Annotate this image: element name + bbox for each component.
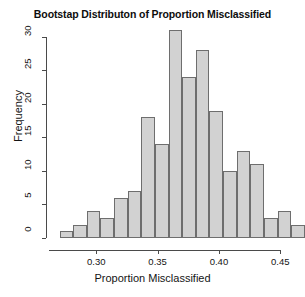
histogram-bar <box>73 225 87 238</box>
y-tick-label: 0 <box>22 227 33 249</box>
histogram-bar <box>264 218 278 238</box>
x-tick-mark <box>280 250 281 254</box>
histogram-figure: Bootstap Distributon of Proportion Miscl… <box>0 0 305 297</box>
y-tick-label: 15 <box>22 126 33 148</box>
y-tick-label: 30 <box>22 25 33 47</box>
y-tick-mark <box>42 204 46 205</box>
x-tick-label: 0.35 <box>138 256 178 267</box>
y-tick-mark <box>42 70 46 71</box>
chart-title: Bootstap Distributon of Proportion Miscl… <box>0 8 305 20</box>
histogram-bar <box>182 77 196 238</box>
histogram-bar <box>250 164 264 238</box>
histogram-bar <box>291 225 305 238</box>
x-tick-mark <box>219 250 220 254</box>
histogram-bar <box>114 198 128 238</box>
histogram-bar <box>196 50 210 238</box>
histogram-bar <box>128 191 142 238</box>
y-tick-mark <box>42 238 46 239</box>
y-tick-label: 10 <box>22 159 33 181</box>
y-tick-mark <box>42 104 46 105</box>
histogram-bar <box>155 144 169 238</box>
y-tick-mark <box>42 37 46 38</box>
histogram-bar <box>209 111 223 238</box>
histogram-bar <box>237 151 251 238</box>
y-axis-line <box>46 37 47 238</box>
y-tick-label: 20 <box>22 92 33 114</box>
histogram-bar <box>141 117 155 238</box>
histogram-bar <box>100 218 114 238</box>
y-tick-label: 5 <box>22 193 33 215</box>
histogram-bar <box>223 171 237 238</box>
histogram-bar <box>278 211 292 238</box>
histogram-bar <box>87 211 101 238</box>
y-tick-mark <box>42 171 46 172</box>
x-tick-label: 0.30 <box>76 256 116 267</box>
x-axis-line <box>49 250 280 251</box>
histogram-bar <box>60 231 74 238</box>
y-tick-label: 25 <box>22 59 33 81</box>
x-tick-label: 0.45 <box>260 256 300 267</box>
x-axis-title: Proportion Misclassified <box>0 272 305 284</box>
x-tick-label: 0.40 <box>199 256 239 267</box>
x-tick-mark <box>158 250 159 254</box>
x-tick-mark <box>96 250 97 254</box>
histogram-bar <box>169 30 183 238</box>
y-tick-mark <box>42 137 46 138</box>
